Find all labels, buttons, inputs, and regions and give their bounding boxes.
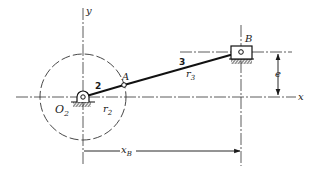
ground-pivot-o2 xyxy=(71,91,95,107)
y-axis-label: y xyxy=(85,5,92,16)
slider-crank-diagram: y x O2 A B 2 r2 3 r3 e xB xyxy=(0,0,312,179)
pin-a xyxy=(122,83,127,88)
slider-block-b xyxy=(229,46,254,64)
crank-length-label: r2 xyxy=(103,103,113,117)
rod-length-label: r3 xyxy=(186,68,196,82)
pin-b-label: B xyxy=(244,33,252,44)
pin-a-label: A xyxy=(121,71,129,82)
offset-e-label: e xyxy=(275,68,281,79)
xb-label: xB xyxy=(121,144,132,158)
x-axis-label: x xyxy=(298,91,304,102)
link-3-number: 3 xyxy=(179,57,185,67)
pivot-o2-label: O2 xyxy=(55,103,69,118)
link-2-number: 2 xyxy=(95,81,101,91)
